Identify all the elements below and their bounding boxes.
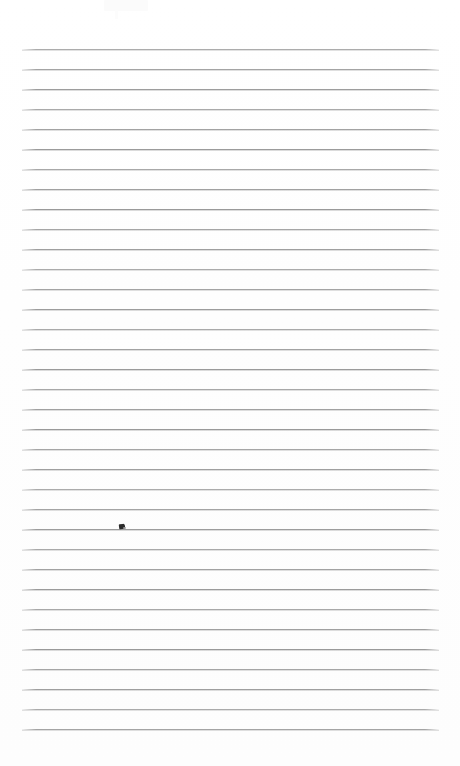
- ruled-line: [22, 709, 439, 710]
- ruled-line: [22, 569, 439, 570]
- ruled-line: [22, 249, 439, 250]
- ruled-line: [22, 309, 439, 310]
- ruled-line: [22, 509, 439, 510]
- ruled-line: [22, 269, 439, 270]
- ruled-line: [22, 449, 439, 450]
- scan-artifact-icon: [104, 0, 148, 11]
- ruled-line: [22, 609, 439, 610]
- ruled-line: [22, 129, 439, 130]
- ruled-line: [22, 489, 439, 490]
- ruled-line: [22, 209, 439, 210]
- ruled-line: [22, 729, 439, 730]
- ruled-line: [22, 349, 439, 350]
- ruled-line: [22, 149, 439, 150]
- ruled-line: [22, 669, 439, 670]
- ruled-line: [22, 629, 439, 630]
- ruled-line: [22, 369, 439, 370]
- ruled-line: [22, 49, 439, 50]
- paper-surface: [0, 0, 460, 766]
- ruled-line: [22, 469, 439, 470]
- ruled-line: [22, 689, 439, 690]
- ruled-line: [22, 429, 439, 430]
- ruled-line: [22, 189, 439, 190]
- ruled-line: [22, 109, 439, 110]
- ruled-line: [22, 389, 439, 390]
- ruled-line: [22, 409, 439, 410]
- ruled-line: [22, 229, 439, 230]
- scan-artifact-secondary-icon: [115, 10, 118, 19]
- ruled-line: [22, 329, 439, 330]
- ruled-line: [22, 549, 439, 550]
- scanned-page: [0, 0, 460, 766]
- ruled-line: [22, 529, 439, 530]
- ruled-line: [22, 89, 439, 90]
- ruled-line: [22, 589, 439, 590]
- ruled-line: [22, 289, 439, 290]
- ink-smudge-tail-mark: [123, 527, 126, 529]
- ruled-line: [22, 69, 439, 70]
- ruled-line: [22, 649, 439, 650]
- ruled-line: [22, 169, 439, 170]
